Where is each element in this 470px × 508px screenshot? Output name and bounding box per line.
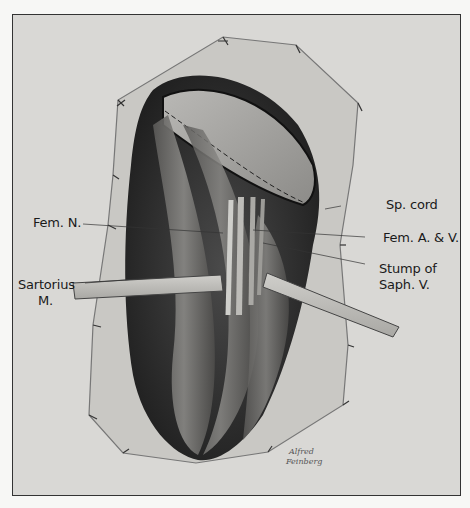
label-sartorius-line2: M. xyxy=(38,293,53,308)
artist-signature-line2: Feinberg xyxy=(286,457,322,467)
artist-signature-line1: Alfred xyxy=(289,447,314,457)
label-stump-line1: Stump of xyxy=(379,261,437,276)
anatomical-drawing xyxy=(13,15,461,496)
illustration-frame: Fem. N. Sartorius M. Sp. cord Fem. A. & … xyxy=(12,14,461,496)
label-stump-line2: Saph. V. xyxy=(379,277,430,292)
label-femoral-nerve: Fem. N. xyxy=(33,215,81,230)
label-spermatic-cord: Sp. cord xyxy=(386,197,438,212)
label-femoral-artery-vein: Fem. A. & V. xyxy=(383,230,459,245)
label-sartorius-line1: Sartorius xyxy=(18,277,75,292)
